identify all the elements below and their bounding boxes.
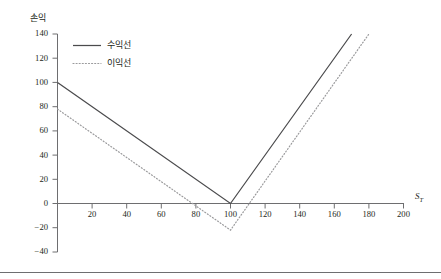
x-axis-title-subscript: T xyxy=(420,196,424,203)
x-tick-label: 100 xyxy=(224,209,237,219)
x-tick-label: 120 xyxy=(259,209,272,219)
x-tick-label: 20 xyxy=(88,209,97,219)
legend-label-dotted: 이익선 xyxy=(107,57,131,68)
x-tick-group xyxy=(92,204,403,209)
chart-canvas: 140 120 100 80 60 40 20 0 −20 −40 20 xyxy=(0,0,441,279)
x-tick-label: 140 xyxy=(293,209,306,219)
y-tick-label: 0 xyxy=(44,198,48,208)
y-tick-label: −20 xyxy=(35,222,48,232)
y-tick-group xyxy=(53,34,58,252)
x-axis-title: ST xyxy=(415,191,424,203)
y-axis-title: 손익 xyxy=(30,12,46,23)
x-tick-label: 40 xyxy=(122,209,131,219)
y-tick-label: 80 xyxy=(39,101,48,111)
y-tick-label: 60 xyxy=(39,125,48,135)
y-tick-label-group: 140 120 100 80 60 40 20 0 −20 −40 xyxy=(35,28,48,256)
y-tick-label: 40 xyxy=(39,150,48,160)
x-tick-label: 200 xyxy=(397,209,410,219)
x-tick-label: 60 xyxy=(157,209,166,219)
chart-figure: 140 120 100 80 60 40 20 0 −20 −40 20 xyxy=(0,0,441,279)
legend: 수익선 이익선 xyxy=(73,39,131,68)
y-tick-label: −40 xyxy=(35,246,48,256)
series-line-dotted xyxy=(58,34,369,230)
x-tick-label-group: 20 40 60 80 100 120 140 160 180 200 xyxy=(88,209,410,219)
x-tick-label: 180 xyxy=(362,209,375,219)
series-line-solid xyxy=(58,34,352,204)
y-tick-label: 20 xyxy=(39,174,48,184)
footer-divider xyxy=(0,272,441,273)
legend-label-solid: 수익선 xyxy=(107,39,131,50)
x-tick-label: 80 xyxy=(192,209,201,219)
y-tick-label: 100 xyxy=(35,77,48,87)
x-tick-label: 160 xyxy=(328,209,341,219)
y-tick-label: 140 xyxy=(35,28,48,38)
y-tick-label: 120 xyxy=(35,53,48,63)
